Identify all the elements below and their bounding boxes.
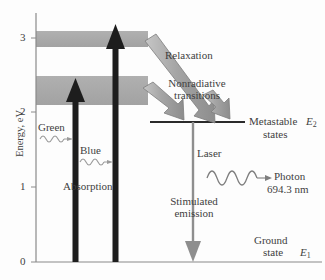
y-tick-label-1: 1 — [20, 180, 26, 192]
absorption-label: Absorption — [63, 181, 113, 193]
green-label: Green — [38, 122, 65, 134]
green-absorption-arrow — [66, 78, 85, 262]
blue-absorption-arrow — [106, 24, 125, 262]
y-tick-label-0: 0 — [20, 255, 26, 267]
ground-line-1: Ground — [254, 234, 288, 246]
photon-label: Photon — [274, 171, 305, 183]
lower-pump-band — [36, 76, 148, 105]
stimulated-line-2: emission — [174, 207, 213, 219]
upper-pump-band — [36, 31, 148, 47]
ground-line-2: state — [263, 246, 283, 258]
metastable-line-1: Metastable — [249, 115, 297, 127]
relaxation-label: Relaxation — [165, 50, 213, 62]
nonradiative-line-2: transitions — [174, 89, 220, 101]
metastable-symbol: E — [306, 115, 313, 127]
metastable-states-label: Metastable E2 states — [249, 116, 317, 141]
stimulated-emission-label: Stimulated emission — [155, 196, 233, 219]
photon-wavelength-label: 694.3 nm — [267, 184, 309, 196]
stimulated-emission-arrow — [185, 122, 201, 262]
metastable-line-2: states — [263, 128, 287, 140]
laser-label: Laser — [197, 148, 221, 160]
y-tick-label-2: 2 — [20, 105, 26, 117]
blue-label: Blue — [80, 145, 101, 157]
green-wave-icon — [40, 136, 73, 142]
nonradiative-transitions-label: Nonradiative transitions — [161, 78, 233, 101]
stimulated-line-1: Stimulated — [170, 195, 218, 207]
metastable-symbol-subscript: 2 — [313, 120, 317, 129]
ground-symbol-subscript: 1 — [307, 250, 311, 259]
energy-level-diagram: Energy, eV 3 2 1 0 Green Blue Absorption… — [0, 0, 325, 280]
ground-symbol: E — [300, 246, 307, 258]
photon-wave-icon — [207, 171, 272, 185]
ground-state-label: Ground state E1 — [254, 235, 311, 260]
y-tick-label-3: 3 — [20, 31, 26, 43]
blue-wave-icon — [80, 159, 113, 165]
nonradiative-line-1: Nonradiative — [168, 77, 225, 89]
